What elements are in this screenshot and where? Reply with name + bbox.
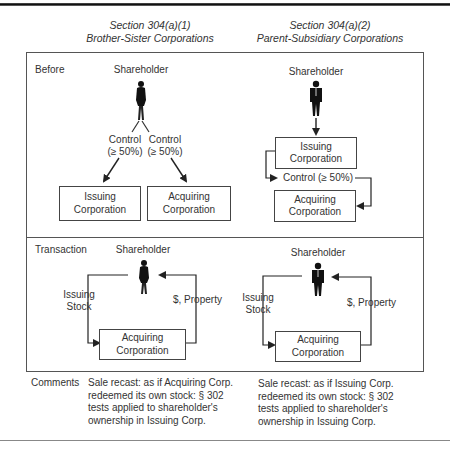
man-figure-icon — [309, 262, 327, 298]
man-figure-icon — [307, 80, 325, 118]
row-label-before: Before — [35, 64, 64, 76]
shareholder-label: Shareholder — [291, 247, 345, 259]
acquiring-corporation-box: Acquiring Corporation — [147, 186, 231, 221]
shareholder-label: Shareholder — [116, 244, 170, 256]
issuing-stock-label: Issuing Stock — [242, 292, 274, 316]
cash-property-label: $, Property — [347, 297, 396, 309]
issuing-stock-label: Issuing Stock — [63, 289, 95, 313]
issuing-corporation-box: Issuing Corporation — [275, 137, 357, 169]
control-label: Control (≥ 50%) — [283, 172, 353, 184]
control-right-label: Control (≥ 50%) — [148, 134, 183, 158]
bottom-rule — [0, 440, 450, 441]
woman-figure-icon — [132, 80, 150, 122]
shareholder-label: Shareholder — [289, 66, 343, 78]
comment-brother-sister: Sale recast: as if Acquiring Corp. redee… — [88, 377, 233, 427]
row-label-transaction: Transaction — [35, 244, 87, 256]
cash-property-label: $, Property — [173, 294, 222, 306]
comment-parent-subsidiary: Sale recast: as if Issuing Corp. redeeme… — [258, 378, 394, 428]
acquiring-corporation-box: Acquiring Corporation — [275, 331, 361, 362]
control-left-label: Control (≥ 50%) — [108, 134, 143, 158]
row-label-comments: Comments — [31, 377, 79, 389]
shareholder-label: Shareholder — [114, 64, 168, 76]
woman-figure-icon — [135, 259, 153, 295]
acquiring-corporation-box: Acquiring Corporation — [99, 329, 186, 360]
issuing-corporation-box: Issuing Corporation — [59, 186, 141, 221]
acquiring-corporation-box: Acquiring Corporation — [274, 190, 356, 222]
